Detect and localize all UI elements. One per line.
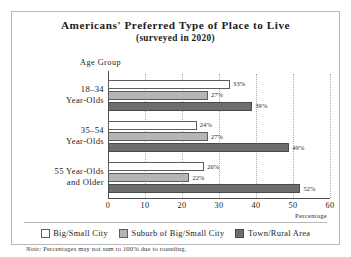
legend-swatch-icon xyxy=(235,229,244,238)
category-label: 18–34Year-Olds xyxy=(12,84,104,106)
bar-value-label: 39% xyxy=(255,103,267,110)
bar-value-label: 22% xyxy=(192,174,204,181)
bar-town-rural-area xyxy=(108,102,252,111)
category-label-line: 18–34 xyxy=(12,84,104,95)
category-label-line: 35–54 xyxy=(12,125,104,136)
chart-subtitle: (surveyed in 2020) xyxy=(12,32,339,44)
title-block: Americans' Preferred Type of Place to Li… xyxy=(12,18,339,44)
chart-legend: Big/Small CitySuburb of Big/Small CityTo… xyxy=(24,222,327,243)
category-label-line: Year-Olds xyxy=(12,95,104,106)
bar-row: 49% xyxy=(108,143,330,152)
bar-town-rural-area xyxy=(108,184,300,193)
x-tick-label: 40 xyxy=(252,201,261,210)
bar-big-small-city xyxy=(108,121,197,130)
footnote-text: Percentages may not sum to 100% due to r… xyxy=(41,245,186,252)
x-axis-line xyxy=(108,198,330,199)
bar-row: 27% xyxy=(108,132,330,141)
x-tick-label: 50 xyxy=(289,201,298,210)
bar-suburb-of-big-small-city xyxy=(108,91,208,100)
bar-row: 22% xyxy=(108,173,330,182)
x-tick-label: 60 xyxy=(326,201,335,210)
bar-value-label: 27% xyxy=(211,92,223,99)
plot-area: 33%27%39%24%27%49%26%22%52% xyxy=(108,74,330,198)
legend-item[interactable]: Suburb of Big/Small City xyxy=(119,229,225,238)
bar-row: 39% xyxy=(108,102,330,111)
x-tick-label: 10 xyxy=(141,201,150,210)
bar-row: 24% xyxy=(108,121,330,130)
legend-label: Big/Small City xyxy=(53,229,108,238)
category-label-line: 55 Year-Olds xyxy=(12,166,104,177)
chart-figure-frame: Americans' Preferred Type of Place to Li… xyxy=(11,11,340,245)
legend-swatch-icon xyxy=(41,229,50,238)
bar-value-label: 24% xyxy=(200,122,212,129)
bar-suburb-of-big-small-city xyxy=(108,132,208,141)
legend-item[interactable]: Big/Small City xyxy=(41,229,108,238)
bar-suburb-of-big-small-city xyxy=(108,173,189,182)
x-tick-label: 20 xyxy=(178,201,187,210)
bar-big-small-city xyxy=(108,80,230,89)
legend-swatch-icon xyxy=(119,229,128,238)
y-axis-label: Age Group xyxy=(80,58,121,67)
category-label-group: 18–34Year-Olds35–54Year-Olds55 Year-Olds… xyxy=(12,74,104,198)
x-axis-label: Percentage xyxy=(295,212,327,219)
bar-value-label: 26% xyxy=(207,163,219,170)
chart-footnote: Note: Percentages may not sum to 100% du… xyxy=(26,245,186,252)
category-label-line: and Older xyxy=(12,177,104,188)
bar-row: 26% xyxy=(108,162,330,171)
category-label-line: Year-Olds xyxy=(12,136,104,147)
bar-row: 33% xyxy=(108,80,330,89)
category-label: 35–54Year-Olds xyxy=(12,125,104,147)
bar-value-label: 27% xyxy=(211,133,223,140)
bar-value-label: 52% xyxy=(303,185,315,192)
bar-row: 52% xyxy=(108,184,330,193)
x-tick-label: 30 xyxy=(215,201,224,210)
gridline-60 xyxy=(330,74,331,198)
bar-town-rural-area xyxy=(108,143,289,152)
legend-label: Suburb of Big/Small City xyxy=(131,229,224,238)
chart-title: Americans' Preferred Type of Place to Li… xyxy=(12,18,339,32)
legend-label: Town/Rural Area xyxy=(248,229,310,238)
category-label: 55 Year-Oldsand Older xyxy=(12,166,104,188)
bar-big-small-city xyxy=(108,162,204,171)
bar-value-label: 33% xyxy=(233,80,245,87)
bar-row: 27% xyxy=(108,91,330,100)
legend-item[interactable]: Town/Rural Area xyxy=(235,229,310,238)
x-tick-label: 0 xyxy=(106,201,110,210)
footnote-tag: Note: xyxy=(26,245,41,252)
bar-value-label: 49% xyxy=(292,144,304,151)
